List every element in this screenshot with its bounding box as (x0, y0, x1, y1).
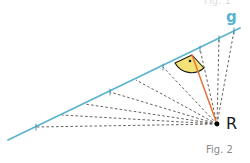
geometry-canvas (0, 0, 250, 163)
dashed-ray-4 (110, 92, 217, 124)
figure-caption: Fig. 2 (206, 145, 233, 155)
dashed-ray-2 (62, 115, 217, 124)
dashed-ray-9 (217, 31, 234, 124)
line-g-label: g (226, 10, 237, 25)
right-angle-marker-dot (189, 60, 192, 63)
dashed-ray-8 (217, 39, 219, 124)
point-R-marker (215, 122, 220, 127)
dashed-ray-5 (136, 80, 217, 124)
dashed-ray-7 (200, 49, 217, 124)
point-R-label: R (226, 116, 237, 132)
dashed-ray-1 (36, 124, 217, 127)
perpendicular-segment (192, 55, 217, 124)
dashed-ray-3 (85, 104, 217, 124)
geometry-figure: Fig. 1 g R Fig. 2 (0, 0, 250, 163)
dashed-ray-6 (163, 67, 217, 124)
figure-caption-above: Fig. 1 (204, 0, 231, 6)
